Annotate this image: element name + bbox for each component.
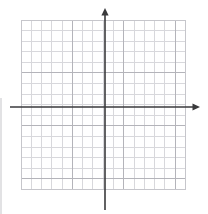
coordinate-grid-figure xyxy=(0,0,208,214)
coordinate-plane-svg xyxy=(0,0,208,214)
